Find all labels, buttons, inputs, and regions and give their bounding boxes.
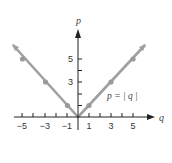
function-line: [12, 44, 146, 117]
x-tick-neg1: −1: [62, 121, 72, 131]
x-tick-1: 1: [86, 121, 91, 131]
y-tick-3: 3: [68, 77, 73, 87]
x-tick-neg3: −3: [40, 121, 50, 131]
x-axis-arrow-icon: [147, 114, 155, 120]
point-q-3: [108, 79, 113, 84]
y-tick-5: 5: [68, 54, 73, 64]
x-tick-3: 3: [108, 121, 113, 131]
x-tick-neg5: −5: [17, 121, 27, 131]
point-q-5: [130, 56, 135, 61]
point-q-neg5: [20, 56, 25, 61]
x-axis: −5 −3 −1 1 3 5 q: [14, 112, 164, 131]
x-tick-5: 5: [130, 121, 135, 131]
equation-label: p = | q |: [106, 91, 138, 101]
absolute-value-chart: −5 −3 −1 1 3 5 q 3 5 p p = | q |: [0, 0, 172, 163]
y-axis-arrow-icon: [75, 29, 81, 38]
point-q-neg3: [43, 79, 48, 84]
point-q-neg1: [65, 103, 70, 108]
point-q-1: [86, 103, 91, 108]
y-axis-label: p: [75, 15, 81, 26]
x-axis-label: q: [159, 112, 164, 123]
